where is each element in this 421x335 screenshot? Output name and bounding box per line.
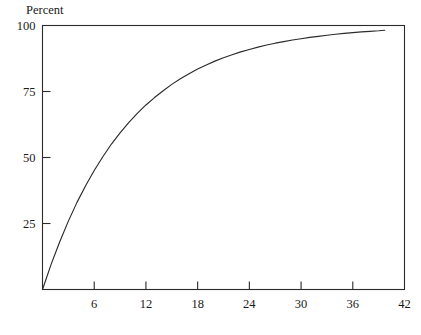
y-tick-label: 75 bbox=[23, 85, 36, 99]
x-tick-label: 36 bbox=[347, 297, 360, 311]
y-tick-label: 100 bbox=[17, 19, 36, 33]
x-tick-label: 42 bbox=[398, 297, 411, 311]
x-tick-label: 24 bbox=[243, 297, 256, 311]
chart-svg: Percent 255075100 6121824303642 bbox=[0, 0, 421, 335]
x-tick-label: 30 bbox=[295, 297, 308, 311]
chart-background bbox=[0, 0, 421, 335]
y-tick-label: 50 bbox=[23, 151, 36, 165]
y-axis-title: Percent bbox=[26, 3, 64, 17]
x-tick-label: 12 bbox=[140, 297, 153, 311]
x-tick-label: 18 bbox=[191, 297, 204, 311]
y-tick-label: 25 bbox=[23, 217, 36, 231]
x-tick-label: 6 bbox=[91, 297, 97, 311]
chart-figure: Percent 255075100 6121824303642 bbox=[0, 0, 421, 335]
